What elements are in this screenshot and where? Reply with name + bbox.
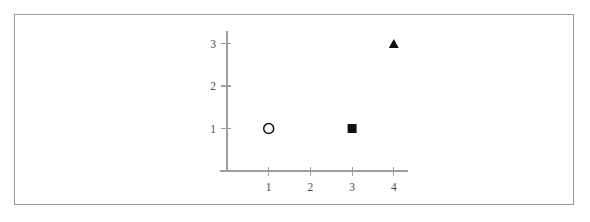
plot-svg: 1234123 — [0, 0, 590, 222]
data-markers-group — [264, 39, 399, 134]
y-tick-label: 3 — [210, 38, 216, 50]
ticks-group — [221, 44, 394, 177]
figure-canvas: 1234123 — [0, 0, 590, 222]
tick-labels-group: 1234123 — [210, 38, 397, 194]
x-tick-label: 2 — [308, 181, 314, 193]
axes-group — [220, 31, 408, 172]
data-point-filled-triangle[interactable] — [389, 39, 399, 48]
scatter-plot: 1234123 — [0, 0, 590, 222]
x-tick-label: 3 — [349, 181, 355, 193]
x-tick-label: 1 — [266, 181, 272, 193]
y-tick-label: 2 — [210, 80, 216, 92]
data-point-open-circle[interactable] — [264, 124, 274, 134]
y-tick-label: 1 — [210, 123, 216, 135]
x-tick-label: 4 — [391, 181, 397, 193]
data-point-filled-square[interactable] — [348, 124, 357, 133]
